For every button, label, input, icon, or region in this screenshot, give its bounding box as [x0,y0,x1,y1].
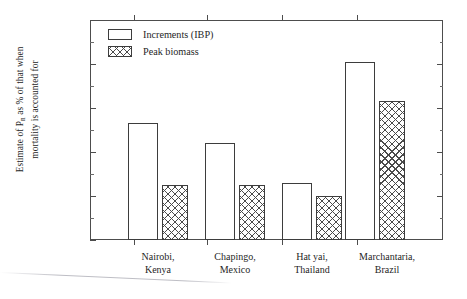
chart-legend: Increments (IBP) Peak biomass [108,26,213,60]
y-tick-minor-90 [90,42,94,43]
y-tick-right-40 [437,152,443,153]
legend-label-increments: Increments (IBP) [143,29,213,40]
y-axis-label: Estimate of Pn as % of that whenmortalit… [15,0,42,219]
y-axis-label-text-c: mortality is accounted for [30,60,40,158]
x-tick-2 [207,240,208,245]
bar-peak-biomass-marchantaria [379,101,405,240]
x-tick-top-3 [282,15,283,20]
y-tick-minor-70 [90,86,94,87]
y-tick-right-minor-10 [440,218,444,219]
y-tick-right-20 [437,196,443,197]
y-axis-label-text-b: as % of that when [15,47,25,118]
y-tick-minor-10 [90,218,94,219]
x-axis-label-marchantaria: Marchantaria, Brazil [327,250,447,276]
y-tick-right-80 [437,64,443,65]
x-tick-top-2 [207,15,208,20]
y-tick-minor-30 [90,174,94,175]
bar-increments-marchantaria [345,62,375,240]
bar-increments-nairobi [128,123,158,240]
y-tick-60 [90,108,96,109]
y-tick-80 [90,64,96,65]
y-tick-40 [90,152,96,153]
x-tick-3 [282,240,283,245]
y-tick-right-60 [437,108,443,109]
x-tick-1 [134,240,135,245]
y-tick-100 [90,20,96,21]
y-tick-right-minor-90 [440,42,444,43]
y-axis-label-subscript: n [19,117,27,121]
y-tick-20 [90,196,96,197]
y-tick-right-minor-70 [440,86,444,87]
open-rect-swatch-icon [108,29,132,40]
legend-label-peak-biomass: Peak biomass [143,46,199,57]
legend-item-peak-biomass: Peak biomass [108,43,213,60]
x-tick-top-4 [357,15,358,20]
y-tick-0 [90,240,96,241]
bar-peak-biomass-nairobi [162,185,188,240]
bar-peak-biomass-chapingo [239,185,265,240]
x-tick-top-1 [134,15,135,20]
bar-increments-hat-yai [282,183,312,240]
y-tick-right-minor-30 [440,174,444,175]
legend-item-increments: Increments (IBP) [108,26,213,43]
y-tick-right-minor-50 [440,130,444,131]
bar-increments-chapingo [205,143,235,240]
bar-chart-figure: Estimate of Pn as % of that whenmortalit… [0,0,467,299]
cross-hatch-rect-swatch-icon [108,46,132,57]
x-tick-4 [357,240,358,245]
y-axis-label-text-a: Estimate of P [15,121,25,172]
bar-peak-biomass-hat-yai [316,196,342,240]
y-tick-minor-50 [90,130,94,131]
